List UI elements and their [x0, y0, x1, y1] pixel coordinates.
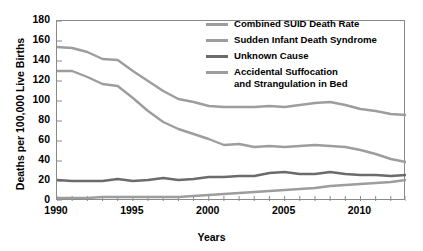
legend-swatch-accidental-suffocation [206, 71, 228, 74]
legend-swatch-sids [206, 39, 228, 42]
y-tick-120: 120 [16, 73, 50, 85]
legend-item-sids: Sudden Infant Death Syndrome [206, 34, 377, 46]
legend-label-accidental-line1: Accidental Suffocation [234, 66, 338, 77]
legend-label-unknown-cause: Unknown Cause [234, 50, 309, 62]
legend-swatch-combined-suid [206, 23, 228, 26]
x-tick-2010: 2010 [334, 204, 384, 216]
x-tick-1990: 1990 [31, 204, 81, 216]
series-line-2 [57, 172, 406, 181]
y-tick-20: 20 [16, 173, 50, 185]
y-tick-40: 40 [16, 153, 50, 165]
y-tick-160: 160 [16, 33, 50, 45]
legend-label-accidental-suffocation: Accidental Suffocation and Strangulation… [234, 66, 348, 89]
y-tick-100: 100 [16, 93, 50, 105]
x-tick-2005: 2005 [259, 204, 309, 216]
legend-item-accidental-suffocation: Accidental Suffocation and Strangulation… [206, 66, 377, 89]
y-tick-140: 140 [16, 53, 50, 65]
legend-swatch-unknown-cause [206, 55, 228, 58]
y-tick-180: 180 [16, 13, 50, 25]
x-tick-1995: 1995 [107, 204, 157, 216]
legend-item-combined-suid: Combined SUID Death Rate [206, 18, 377, 30]
x-tick-2000: 2000 [183, 204, 233, 216]
legend-label-combined-suid: Combined SUID Death Rate [234, 18, 359, 30]
suid-death-rate-line-chart: Deaths per 100,000 Live Births Years 020… [0, 0, 423, 251]
chart-legend: Combined SUID Death Rate Sudden Infant D… [206, 18, 377, 94]
series-line-3 [57, 180, 406, 198]
legend-label-accidental-line2: and Strangulation in Bed [234, 78, 348, 89]
legend-label-sids: Sudden Infant Death Syndrome [234, 34, 377, 46]
y-tick-80: 80 [16, 113, 50, 125]
legend-item-unknown-cause: Unknown Cause [206, 50, 377, 62]
y-tick-60: 60 [16, 133, 50, 145]
